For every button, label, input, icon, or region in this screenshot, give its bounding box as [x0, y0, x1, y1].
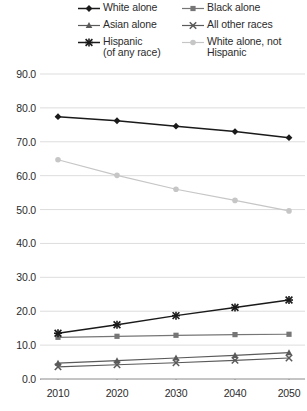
- data-point-marker: [55, 113, 62, 120]
- x-axis-tick-label: 2020: [106, 387, 129, 399]
- series-line: [58, 300, 289, 333]
- x-axis-tick-labels: 20102020203020402050: [0, 385, 307, 405]
- y-axis-tick-label: 70.0: [16, 136, 36, 148]
- x-axis-tick-label: 2030: [165, 387, 188, 399]
- y-axis-tick-label: 30.0: [16, 271, 36, 283]
- legend-item-asian-alone: Asian alone: [78, 19, 182, 36]
- x-axis-tick-label: 2010: [47, 387, 70, 399]
- y-axis-tick-label: 40.0: [16, 237, 36, 249]
- series-line: [58, 117, 289, 138]
- legend-item-white-not-hispanic: White alone, not Hispanic: [182, 36, 304, 53]
- legend-item-all-other-races: All other races: [182, 19, 304, 36]
- dot-marker-icon: [182, 37, 204, 48]
- y-axis-tick-label: 10.0: [16, 339, 36, 351]
- y-axis-tick-label: 20.0: [16, 305, 36, 317]
- data-point-marker: [232, 332, 237, 337]
- data-point-marker: [190, 40, 196, 46]
- data-point-marker: [286, 134, 293, 141]
- legend-label: All other races: [207, 19, 273, 30]
- data-point-marker: [54, 329, 62, 337]
- data-point-marker: [286, 332, 291, 337]
- series-black-alone: [55, 332, 291, 340]
- data-point-marker: [286, 208, 292, 214]
- series-line: [58, 353, 289, 364]
- triangle-marker-icon: [78, 20, 100, 31]
- data-point-marker: [114, 117, 121, 124]
- data-point-marker: [113, 321, 121, 329]
- data-point-marker: [173, 123, 180, 130]
- series-white-alone-not-hispanic: [55, 157, 292, 214]
- chart-canvas: [40, 70, 305, 380]
- diamond-marker-icon: [78, 3, 100, 14]
- population-projection-line-chart: White alone Black alone Asian alone All …: [0, 0, 307, 411]
- plot-area: [40, 70, 305, 380]
- y-axis-tick-labels: 90.080.070.060.050.040.030.020.010.00.0: [0, 60, 36, 390]
- x-axis-tick-label: 2040: [224, 387, 247, 399]
- data-point-marker: [172, 312, 180, 320]
- x-axis-tick-label: 2050: [278, 387, 301, 399]
- legend-label: Hispanic (of any race): [103, 36, 161, 58]
- square-marker-icon: [182, 3, 204, 14]
- data-point-marker: [190, 6, 195, 11]
- data-point-marker: [86, 5, 93, 12]
- data-point-marker: [285, 296, 293, 304]
- series-all-other-races: [55, 355, 292, 370]
- y-axis-tick-label: 50.0: [16, 204, 36, 216]
- legend-item-white-alone: White alone: [78, 2, 182, 19]
- star-marker-icon: [78, 37, 100, 48]
- data-point-marker: [114, 173, 120, 179]
- data-point-marker: [173, 186, 179, 192]
- legend-item-black-alone: Black alone: [182, 2, 304, 19]
- data-point-marker: [232, 198, 238, 204]
- x-marker-icon: [182, 20, 204, 31]
- legend-item-hispanic: Hispanic (of any race): [78, 36, 182, 53]
- y-axis-tick-label: 90.0: [16, 68, 36, 80]
- data-point-marker: [173, 333, 178, 338]
- legend-label: White alone, not Hispanic: [207, 36, 281, 58]
- data-point-marker: [231, 303, 239, 311]
- y-axis-tick-label: 60.0: [16, 170, 36, 182]
- series-line: [58, 160, 289, 211]
- legend-label: Black alone: [207, 2, 260, 13]
- data-point-marker: [55, 157, 61, 163]
- series-hispanic-of-any-race: [54, 296, 293, 337]
- data-point-marker: [114, 334, 119, 339]
- chart-legend: White alone Black alone Asian alone All …: [78, 2, 304, 62]
- series-white-alone: [55, 113, 293, 141]
- data-point-marker: [232, 128, 239, 135]
- legend-label: Asian alone: [103, 19, 157, 30]
- legend-label: White alone: [103, 2, 157, 13]
- y-axis-tick-label: 0.0: [22, 373, 36, 385]
- data-point-marker: [85, 39, 93, 47]
- y-axis-tick-label: 80.0: [16, 102, 36, 114]
